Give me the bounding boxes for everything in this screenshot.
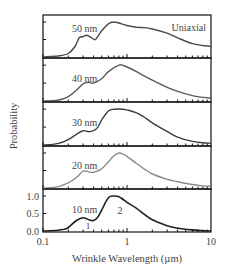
curve-10nm [43,196,211,231]
x-axis-label: Wrinkle Wavelength (µm) [72,253,183,265]
x-tick-label-10: 10 [206,236,216,247]
stacked-probability-chart: Probability 0.1 1 10 0.0 0.5 1.0 Wrinkle… [0,0,226,274]
y-axis-label: Probability [8,102,19,149]
panel-frame-40nm [43,58,211,102]
x-tick-label-0.1: 0.1 [37,236,50,247]
panel-label-20nm: 20 nm [72,160,98,171]
y-tick-label-0.5: 0.5 [27,208,40,219]
curve-40nm [43,65,211,101]
panel-frame-10nm [43,189,211,232]
peak-label-2: 2 [118,205,123,216]
x-tick-label-1: 1 [125,236,130,247]
panel-label-50nm: 50 nm [72,23,98,34]
curve-30nm [43,109,211,145]
y-tick-label-1.0: 1.0 [27,191,40,202]
peak-label-1: 1 [86,221,91,231]
panels-group [43,15,211,232]
panel-label-40nm: 40 nm [72,73,98,84]
curve-20nm [43,153,211,188]
panel-label-10nm: 10 nm [72,204,98,215]
y-tick-label-0.0: 0.0 [27,226,40,237]
uniaxial-annotation: Uniaxial [172,22,207,33]
panel-label-30nm: 30 nm [72,117,98,128]
